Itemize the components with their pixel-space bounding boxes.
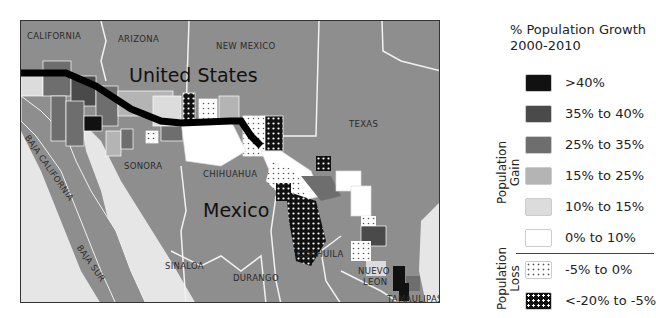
legend-title-line1: % Population Growth [510, 22, 646, 38]
label-sinaloa: SINALOA [165, 261, 204, 271]
loss-group-line2: Loss [509, 247, 522, 310]
label-sonora: SONORA [124, 161, 162, 171]
label-nuevo-leon-2: LEON [363, 277, 387, 287]
label-united-states: United States [129, 64, 258, 86]
label-texas: TEXAS [349, 119, 378, 129]
label-arizona: ARIZONA [118, 34, 159, 44]
legend-label: 0% to 10% [565, 229, 636, 247]
legend-title-line2: 2000-2010 [510, 38, 646, 54]
legend-item-0-10: 0% to 10% [525, 229, 635, 249]
legend-label: 35% to 40% [565, 105, 644, 123]
map-frame: CALIFORNIA ARIZONA NEW MEXICO TEXAS Unit… [20, 20, 440, 303]
legend-divider [516, 253, 654, 254]
swatch-neg5-0 [525, 261, 552, 279]
legend-label: 25% to 35% [565, 136, 644, 154]
gulf-of-mexico [419, 201, 440, 303]
swatch-10-15 [525, 198, 552, 216]
gain-group-line2: Gain [509, 141, 522, 204]
legend-label: <-20% to -5% [565, 292, 656, 310]
swatch-neg20-neg5 [525, 292, 552, 310]
loss-group-label: Population Loss [496, 247, 522, 310]
label-durango: DURANGO [233, 273, 279, 283]
label-chihuahua: CHIHUAHUA [203, 169, 257, 179]
label-nuevo-leon: NUEVO [358, 266, 390, 276]
swatch-gt40 [525, 74, 552, 92]
swatch-15-25 [525, 167, 552, 185]
legend-item-25-35: 25% to 35% [525, 136, 635, 156]
gain-group-label: Population Gain [496, 141, 522, 204]
legend-item-gt40: >40% [525, 74, 635, 94]
swatch-25-35 [525, 136, 552, 154]
legend-item-35-40: 35% to 40% [525, 105, 635, 125]
label-tamaulipas: TAMAULIPAS [387, 294, 440, 303]
legend-title: % Population Growth 2000-2010 [510, 22, 646, 54]
legend-item-neg20-neg5: <-20% to -5% [525, 292, 635, 312]
legend-item-neg5-0: -5% to 0% [525, 261, 635, 281]
label-california: CALIFORNIA [27, 31, 81, 41]
label-coahuila: COAHUILA [297, 249, 344, 259]
legend-item-15-25: 15% to 25% [525, 167, 635, 187]
legend-label: 10% to 15% [565, 198, 644, 216]
label-new-mexico: NEW MEXICO [216, 41, 276, 51]
swatch-0-10 [525, 229, 552, 247]
legend-label: 15% to 25% [565, 167, 644, 185]
label-mexico: Mexico [203, 199, 269, 221]
legend-label: >40% [565, 74, 605, 92]
swatch-35-40 [525, 105, 552, 123]
legend-label: -5% to 0% [565, 261, 632, 279]
legend-item-10-15: 10% to 15% [525, 198, 635, 218]
